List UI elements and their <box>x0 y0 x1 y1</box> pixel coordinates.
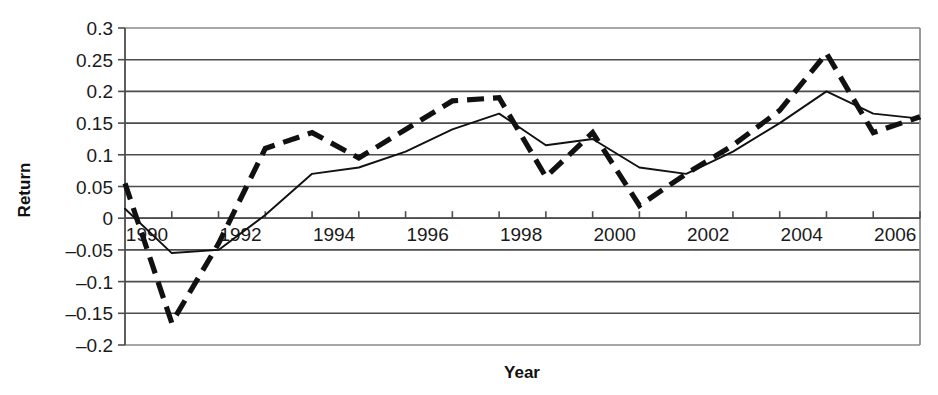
x-tick-label: 1994 <box>313 224 356 245</box>
y-tick-label: –0.15 <box>65 303 113 324</box>
x-axis-tick-labels: 199019921994199619982000200220042006 <box>126 224 917 245</box>
y-tick-label: 0.2 <box>87 81 113 102</box>
y-tick-label: 0.15 <box>76 113 113 134</box>
y-tick-label: 0 <box>102 208 113 229</box>
y-tick-label: 0.25 <box>76 50 113 71</box>
x-tick-label: 2004 <box>781 224 824 245</box>
y-tick-label: 0.3 <box>87 18 113 39</box>
return-vs-year-line-chart: 0.30.250.20.150.10.050–0.05–0.1–0.15–0.2… <box>0 0 938 395</box>
x-tick-label: 1996 <box>406 224 448 245</box>
y-tick-label: –0.2 <box>76 335 113 356</box>
x-axis-title: Year <box>504 363 540 382</box>
x-tick-label: 2002 <box>687 224 729 245</box>
y-tick-label: 0.1 <box>87 145 113 166</box>
chart-figure: 0.30.250.20.150.10.050–0.05–0.1–0.15–0.2… <box>0 0 938 395</box>
x-tick-label: 2006 <box>874 224 916 245</box>
y-tick-label: 0.05 <box>76 177 113 198</box>
x-tick-label: 1998 <box>500 224 542 245</box>
y-axis-tick-labels: 0.30.250.20.150.10.050–0.05–0.1–0.15–0.2 <box>65 18 113 356</box>
x-tick-label: 2000 <box>594 224 636 245</box>
y-tick-label: –0.05 <box>65 240 113 261</box>
y-tick-label: –0.1 <box>76 272 113 293</box>
y-axis-title: Return <box>15 163 34 218</box>
